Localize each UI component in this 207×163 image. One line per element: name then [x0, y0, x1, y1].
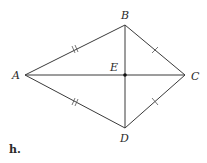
label-a: A — [11, 69, 20, 82]
label-b: B — [120, 9, 129, 22]
figure-caption: h. — [9, 143, 21, 156]
label-d: D — [119, 132, 129, 145]
point-e-dot — [123, 73, 127, 77]
label-c: C — [191, 70, 200, 83]
segment-da — [25, 75, 125, 128]
kite-diagram: A B C D E h. — [0, 0, 207, 163]
tick-marks-ab — [72, 45, 78, 53]
label-e: E — [109, 61, 118, 74]
